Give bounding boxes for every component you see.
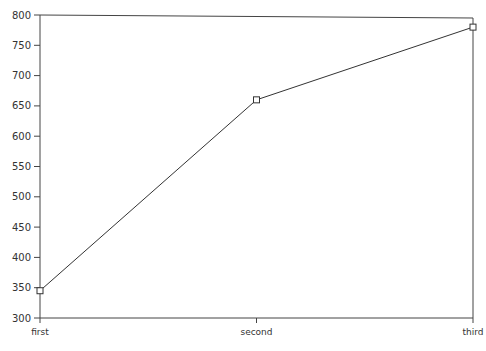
y-tick-label: 700 (12, 70, 31, 81)
data-point-marker (37, 288, 43, 294)
y-tick-label: 400 (12, 252, 31, 263)
x-axis: firstsecondthird (31, 318, 483, 337)
data-point-marker (254, 97, 260, 103)
y-tick-label: 800 (12, 10, 31, 21)
line-chart: 300350400450500550600650700750800 firsts… (0, 0, 486, 351)
y-tick-label: 450 (12, 222, 31, 233)
data-point-marker (470, 24, 476, 30)
x-tick-label: first (31, 327, 49, 337)
x-tick-label: second (240, 327, 272, 337)
y-tick-label: 350 (12, 282, 31, 293)
y-tick-label: 650 (12, 100, 31, 111)
y-tick-label: 600 (12, 131, 31, 142)
y-tick-label: 550 (12, 161, 31, 172)
y-axis: 300350400450500550600650700750800 (12, 10, 40, 324)
y-tick-label: 500 (12, 191, 31, 202)
series-line (40, 27, 473, 291)
top-border-line (40, 15, 473, 18)
plot-frame (40, 15, 473, 318)
data-series (37, 24, 476, 294)
y-tick-label: 300 (12, 313, 31, 324)
y-tick-label: 750 (12, 40, 31, 51)
x-tick-label: third (463, 327, 484, 337)
